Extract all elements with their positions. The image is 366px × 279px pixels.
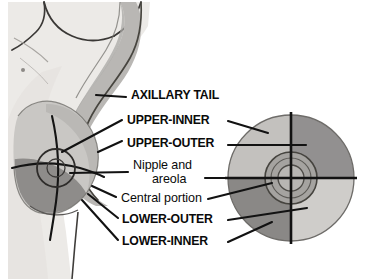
label-axillary-tail: AXILLARY TAIL <box>131 88 219 101</box>
sternal-notch-mark <box>21 68 25 72</box>
breast-quadrants-figure: AXILLARY TAIL UPPER-INNER UPPER-OUTER Ni… <box>0 0 366 279</box>
label-nipple-line-1: Nipple and <box>133 158 192 171</box>
label-upper-inner: UPPER-INNER <box>127 113 209 126</box>
label-upper-outer: UPPER-OUTER <box>127 136 214 149</box>
label-lower-outer: LOWER-OUTER <box>122 212 213 225</box>
label-central-portion: Central portion <box>121 191 202 204</box>
label-lower-inner: LOWER-INNER <box>122 234 208 247</box>
leader-nipple-left <box>70 172 128 173</box>
label-nipple-line-2: areola <box>152 172 186 185</box>
